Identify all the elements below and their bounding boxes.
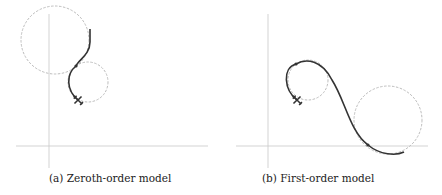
tangent-point xyxy=(366,143,369,146)
figure: (a) Zeroth-order model (b) First-order m… xyxy=(0,0,442,195)
turn-circle-large xyxy=(354,86,422,154)
tangent-point xyxy=(74,64,77,67)
tangent-point xyxy=(294,62,297,65)
trajectory-path xyxy=(286,61,404,154)
caption-b: (b) First-order model xyxy=(262,172,374,184)
panel-b xyxy=(236,14,428,168)
panel-a xyxy=(16,6,208,168)
caption-a: (a) Zeroth-order model xyxy=(49,172,171,184)
figure-canvas xyxy=(0,0,442,195)
